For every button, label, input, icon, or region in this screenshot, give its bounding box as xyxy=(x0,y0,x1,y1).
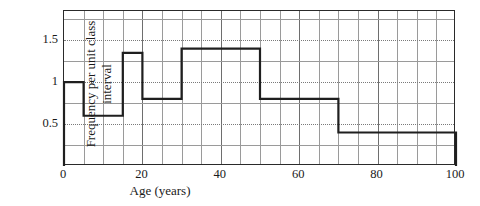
y-axis-tick-labels: 0.511.5 xyxy=(22,0,58,206)
histogram-step-line xyxy=(64,49,456,166)
x-tick-label: 40 xyxy=(200,167,240,181)
y-axis-label-text: Frequency per unit class interval xyxy=(83,21,114,148)
y-tick-label: 1 xyxy=(24,75,58,87)
x-tick-label: 100 xyxy=(435,167,475,181)
x-tick-label: 60 xyxy=(278,167,318,181)
y-tick-label: 0.5 xyxy=(24,117,58,129)
y-tick-label: 1.5 xyxy=(24,33,58,45)
x-axis-label-text: Age (years) xyxy=(130,183,191,199)
x-tick-label: 20 xyxy=(121,167,161,181)
histogram-outline xyxy=(64,11,456,166)
y-axis-label: Frequency per unit class interval xyxy=(83,9,115,159)
histogram-figure: 020406080100 0.511.5 Age (years) Frequen… xyxy=(0,0,480,206)
x-axis-label: Age (years) xyxy=(0,183,480,199)
plot-area xyxy=(63,10,455,165)
x-tick-label: 80 xyxy=(357,167,397,181)
